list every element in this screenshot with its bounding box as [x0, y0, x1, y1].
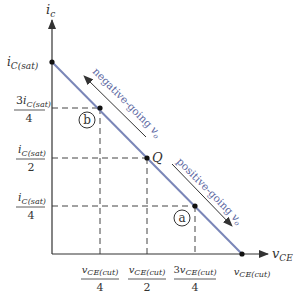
x-tick-1-4-vcut: vCE(cut) 4: [81, 264, 119, 294]
point-q: [144, 155, 149, 160]
label-a: a: [174, 210, 190, 226]
label-b: b: [79, 112, 95, 128]
svg-text:a: a: [178, 211, 185, 225]
svg-text:3vCE(cut): 3vCE(cut): [173, 264, 216, 277]
svg-text:2: 2: [28, 161, 35, 174]
svg-text:ic: ic: [46, 2, 55, 19]
x-tick-3-4-vcut: 3vCE(cut) 4: [173, 264, 216, 294]
svg-text:4: 4: [28, 209, 35, 222]
svg-text:vCE(cut): vCE(cut): [129, 264, 166, 277]
svg-text:iC(sat): iC(sat): [18, 143, 46, 158]
svg-text:iC(sat): iC(sat): [18, 191, 46, 206]
label-q: Q: [152, 150, 163, 165]
svg-text:vCE(cut): vCE(cut): [82, 264, 119, 277]
point-b: [97, 105, 102, 110]
point-a: [192, 203, 197, 208]
saturation-point: [49, 59, 54, 64]
svg-text:vCE(cut): vCE(cut): [234, 266, 271, 279]
svg-text:4: 4: [97, 281, 104, 294]
svg-text:3iC(sat): 3iC(sat): [16, 94, 51, 109]
x-tick-1-2-vcut: vCE(cut) 2: [128, 264, 166, 294]
y-tick-1-2-isat: iC(sat) 2: [16, 143, 46, 174]
y-tick-3-4-isat: 3iC(sat) 4: [14, 94, 51, 125]
svg-text:2: 2: [144, 281, 151, 294]
x-axis-title: vCE: [272, 246, 293, 263]
y-axis-title: ic: [46, 2, 55, 19]
svg-text:vCE: vCE: [272, 246, 293, 263]
dashed-guides: [52, 108, 195, 254]
svg-text:4: 4: [26, 112, 33, 125]
svg-text:iC(sat): iC(sat): [7, 55, 39, 71]
x-tick-vcut: vCE(cut): [234, 266, 271, 279]
y-tick-1-4-isat: iC(sat) 4: [16, 191, 46, 222]
svg-text:4: 4: [192, 281, 199, 294]
y-tick-isat: iC(sat): [7, 55, 39, 71]
svg-text:b: b: [83, 113, 91, 127]
cutoff-point: [239, 251, 244, 256]
load-line-diagram: b a Q ic vCE iC(sat) 3iC(sat) 4 iC(sat) …: [0, 0, 308, 302]
